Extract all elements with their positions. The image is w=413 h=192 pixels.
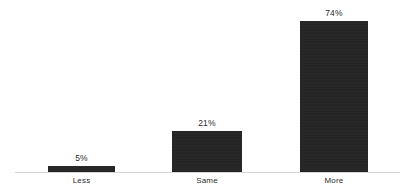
- bar-chart: 5% 21% 74% Less Same More: [0, 0, 413, 192]
- bar-group-same: 21%: [172, 0, 242, 173]
- bar-group-less: 5%: [48, 0, 115, 173]
- bar-group-more: 74%: [300, 0, 368, 173]
- category-label-less: Less: [48, 176, 115, 185]
- plot-area: 5% 21% 74%: [0, 0, 413, 173]
- category-label-same: Same: [172, 176, 242, 185]
- value-label-more: 74%: [300, 8, 368, 18]
- value-label-same: 21%: [172, 118, 242, 128]
- bar-more[interactable]: [300, 21, 368, 173]
- value-label-less: 5%: [48, 153, 115, 163]
- bar-same[interactable]: [172, 131, 242, 173]
- x-axis-line: [15, 172, 400, 173]
- category-label-more: More: [300, 176, 368, 185]
